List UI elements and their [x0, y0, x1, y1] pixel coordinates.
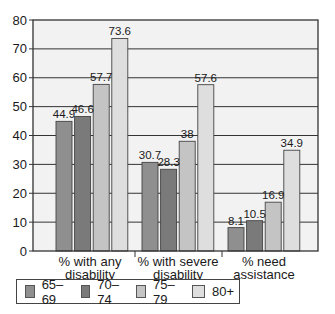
y-tick-label: 70 [13, 41, 27, 56]
y-tick-label: 30 [13, 157, 27, 172]
bar-65–69 [142, 162, 158, 251]
legend-label: 75–79 [153, 277, 178, 307]
y-tick-label: 10 [13, 215, 27, 230]
bar-70–74 [247, 221, 263, 251]
bar-75–79 [179, 141, 195, 251]
bar-75–79 [93, 84, 109, 251]
legend-item: 70–74 [81, 277, 123, 307]
legend-swatch [25, 285, 35, 298]
y-tick-label: 40 [13, 128, 27, 143]
bar-70–74 [161, 169, 177, 251]
data-label: 8.1 [228, 215, 244, 227]
x-category-label: assistance [233, 267, 294, 282]
data-label: 34.9 [281, 137, 303, 149]
data-label: 57.6 [195, 72, 217, 84]
data-label: 46.6 [71, 103, 93, 115]
legend-label: 70–74 [97, 277, 122, 307]
legend-swatch [192, 285, 205, 298]
y-axis: 01020304050607080 [13, 13, 33, 259]
legend-item: 80+ [192, 284, 234, 299]
legend: 65–6970–7475–7980+ [16, 279, 240, 304]
legend-swatch [81, 285, 91, 298]
y-tick-label: 0 [20, 244, 27, 259]
data-label: 73.6 [109, 25, 131, 37]
legend-label: 65–69 [42, 277, 67, 307]
bar-65–69 [228, 228, 244, 251]
data-label: 28.3 [157, 156, 179, 168]
legend-item: 75–79 [136, 277, 178, 307]
data-label: 10.5 [243, 208, 265, 220]
y-tick-label: 60 [13, 70, 27, 85]
bar-70–74 [75, 116, 91, 251]
bar-80+ [284, 150, 300, 251]
bar-80+ [112, 38, 128, 251]
data-label: 57.7 [90, 71, 112, 83]
bar-80+ [198, 85, 214, 251]
legend-item: 65–69 [25, 277, 67, 307]
y-tick-label: 80 [13, 13, 27, 28]
bar-65–69 [56, 121, 72, 251]
legend-swatch [136, 285, 146, 298]
data-label: 16.9 [262, 189, 284, 201]
bar-75–79 [265, 202, 281, 251]
data-label: 38 [181, 128, 194, 140]
y-tick-label: 50 [13, 99, 27, 114]
bar-chart: 01020304050607080 44.946.657.773.630.728… [0, 0, 335, 314]
legend-label: 80+ [212, 284, 234, 299]
y-tick-label: 20 [13, 186, 27, 201]
